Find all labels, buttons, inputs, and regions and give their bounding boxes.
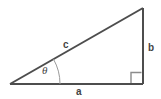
angle-arc [54,59,61,84]
opposite-side-label: b [148,43,154,53]
triangle-side-hypotenuse [10,8,143,84]
triangle-graphic [0,0,161,99]
hypotenuse-label: c [63,40,69,50]
adjacent-side-label: a [76,87,82,97]
right-triangle-diagram: c a b θ [0,0,161,99]
right-angle-square-marker [131,73,142,84]
theta-angle-label: θ [42,65,47,76]
